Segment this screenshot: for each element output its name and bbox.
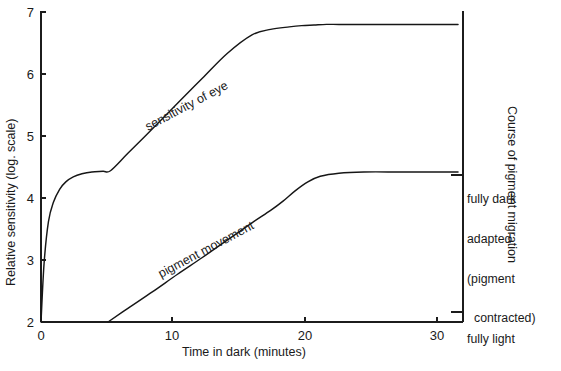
x-axis-title: Time in dark (minutes) xyxy=(182,345,306,359)
x-tick-label-20: 20 xyxy=(298,328,312,343)
curve-label-sensitivity-of-eye: sensitivity of eye xyxy=(143,78,231,133)
y-tick-label-2: 2 xyxy=(27,315,34,330)
y-tick-label-6: 6 xyxy=(27,67,34,82)
x-tick-label-10: 10 xyxy=(165,328,179,343)
curve-sensitivity-of-eye xyxy=(41,24,458,322)
y-tick-label-7: 7 xyxy=(27,5,34,20)
y-axis-left-title: Relative sensitivity (log. scale) xyxy=(4,119,18,286)
annotation-light-line-1: fully light xyxy=(467,333,532,346)
x-tick-label-30: 30 xyxy=(430,328,444,343)
y-tick-label-4: 4 xyxy=(27,191,34,206)
chart-figure: 2 3 4 5 6 7 0 10 20 30 sensitivity of ey… xyxy=(0,0,561,371)
y-tick-label-5: 5 xyxy=(27,129,34,144)
x-tick-marks xyxy=(41,317,437,322)
right-axis-level-ticks xyxy=(451,175,463,312)
annotation-dark-line-3: (pigment xyxy=(467,273,536,286)
annotation-dark-line-2: adapted xyxy=(467,233,536,246)
y-tick-label-3: 3 xyxy=(27,253,34,268)
x-tick-label-0: 0 xyxy=(37,328,44,343)
curve-pigment-movement xyxy=(108,172,458,322)
curve-label-pigment-movement: pigment movement xyxy=(156,218,257,281)
annotation-dark-line-1: fully dark xyxy=(467,193,536,206)
annotation-fully-light-adapted: fully light adapted (pigment expanded) xyxy=(467,307,532,371)
